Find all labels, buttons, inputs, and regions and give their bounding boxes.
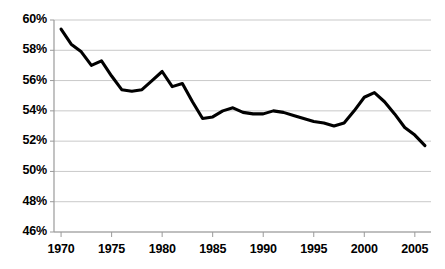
y-axis-label: 58% [23, 42, 47, 56]
x-axis-label: 2005 [385, 242, 445, 256]
y-axis-label: 50% [23, 163, 47, 177]
y-axis-label: 46% [23, 224, 47, 238]
data-line-series-1 [61, 29, 425, 146]
y-axis-label: 60% [23, 12, 47, 26]
chart-plot-area [0, 0, 445, 269]
y-axis-label: 54% [23, 103, 47, 117]
y-axis-label: 56% [23, 73, 47, 87]
y-axis-label: 48% [23, 194, 47, 208]
line-chart: 60%58%56%54%52%50%48%46%1970197519801985… [0, 0, 445, 269]
y-axis-label: 52% [23, 133, 47, 147]
